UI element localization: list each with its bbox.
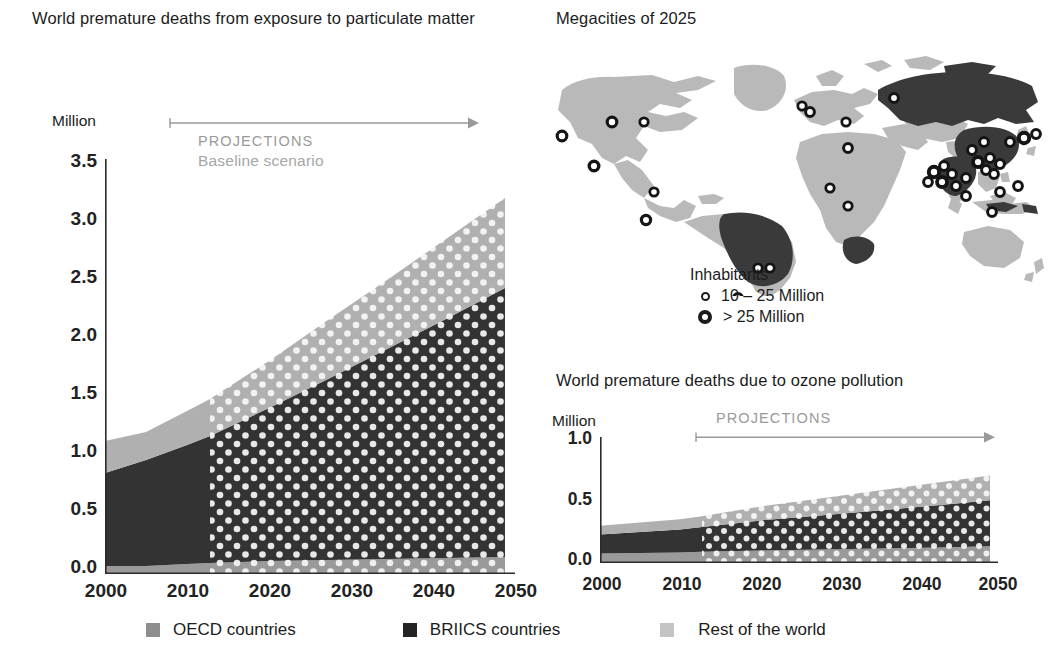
particulate-plot-area [105, 159, 515, 574]
ozone-xtick-2000: 2000 [562, 574, 642, 595]
particulate-ytick-3.5: 3.5 [49, 150, 97, 172]
particulate-projections-arrow [168, 116, 480, 130]
particulate-xtick-2020: 2020 [230, 580, 310, 602]
ozone-plot-area [600, 437, 998, 563]
legend-label-oecd: OECD countries [173, 620, 296, 640]
particulate-ytick-2.0: 2.0 [49, 324, 97, 346]
map-legend: Inhabitants 10 – 25 Million > 25 Million [690, 266, 824, 326]
oecd-swatch-icon [146, 623, 160, 637]
world-map [548, 46, 1048, 296]
ozone-xtick-2040: 2040 [882, 574, 962, 595]
ozone-xtick-2030: 2030 [802, 574, 882, 595]
legend-item-oecd: OECD countries [146, 620, 296, 640]
particulate-projection-areas [210, 198, 505, 574]
ozone-projection-areas [702, 475, 990, 562]
particulate-xtick-2050: 2050 [476, 580, 556, 602]
map-legend-row-small: 10 – 25 Million [690, 287, 824, 305]
map-title: Megacities of 2025 [556, 8, 1026, 29]
ozone-chart-title: World premature deaths due to ozone poll… [556, 370, 1036, 391]
ozone-projections-label: PROJECTIONS [716, 410, 831, 426]
particulate-ytick-1.5: 1.5 [49, 382, 97, 404]
ozone-xtick-2050: 2050 [958, 574, 1038, 595]
ozone-historic-areas [600, 516, 702, 562]
legend-item-rest: Rest of the world [660, 620, 826, 640]
particulate-xtick-2030: 2030 [312, 580, 392, 602]
legend-item-briics: BRIICS countries [403, 620, 560, 640]
large-circle-marker-icon [698, 310, 712, 324]
particulate-xtick-2010: 2010 [148, 580, 228, 602]
particulate-xtick-2040: 2040 [394, 580, 474, 602]
ozone-xtick-2020: 2020 [722, 574, 802, 595]
rest-swatch-icon [660, 623, 674, 637]
series-legend: OECD countries BRIICS countries Rest of … [146, 620, 826, 640]
particulate-historic-areas [105, 399, 210, 574]
particulate-xtick-2000: 2000 [66, 580, 146, 602]
particulate-chart-title: World premature deaths from exposure to … [32, 8, 502, 29]
particulate-matter-chart-panel: World premature deaths from exposure to … [32, 8, 532, 29]
map-legend-label-large: > 25 Million [723, 308, 804, 326]
particulate-ytick-2.5: 2.5 [49, 266, 97, 288]
particulate-ytick-0.5: 0.5 [49, 498, 97, 520]
map-legend-row-large: > 25 Million [690, 308, 824, 326]
briics-swatch-icon [403, 623, 417, 637]
ozone-ytick-1.0: 1.0 [548, 428, 592, 449]
particulate-projections-label: PROJECTIONS [198, 133, 313, 149]
particulate-ytick-0.0: 0.0 [49, 556, 97, 578]
particulate-ytick-3.0: 3.0 [49, 208, 97, 230]
ozone-xtick-2010: 2010 [642, 574, 722, 595]
particulate-ytick-1.0: 1.0 [49, 440, 97, 462]
ozone-ytick-0.5: 0.5 [548, 489, 592, 510]
map-legend-title: Inhabitants [690, 266, 824, 284]
small-circle-marker-icon [701, 292, 710, 301]
legend-label-rest: Rest of the world [698, 620, 826, 640]
legend-label-briics: BRIICS countries [430, 620, 560, 640]
ozone-ytick-0.0: 0.0 [548, 549, 592, 570]
particulate-y-axis-unit: Million [52, 112, 96, 130]
map-legend-label-small: 10 – 25 Million [721, 287, 824, 305]
